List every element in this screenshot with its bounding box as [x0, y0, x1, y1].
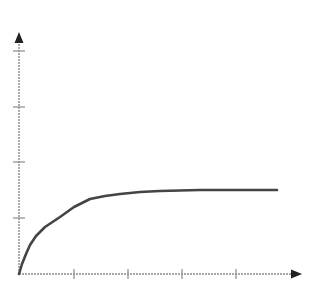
x-axis-arrow-icon [291, 270, 302, 279]
y-axis-arrow-icon [15, 32, 24, 43]
chart-container [0, 0, 314, 298]
data-curve [19, 190, 277, 274]
axes [15, 32, 303, 279]
plot-area [0, 0, 314, 298]
